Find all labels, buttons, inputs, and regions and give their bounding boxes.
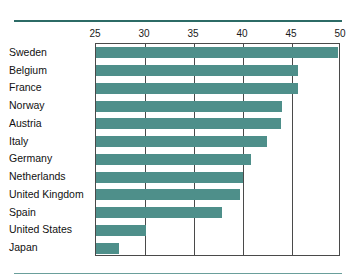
category-label: Norway [0,99,88,111]
category-label: Italy [0,135,88,147]
bar [96,172,243,183]
bar [96,189,240,200]
bar [96,243,119,254]
bar-series [96,44,339,255]
bar [96,65,298,76]
plot-area [95,43,340,256]
category-label: Austria [0,117,88,129]
x-tick-label: 50 [334,27,345,41]
bar [96,118,281,129]
bar-row [96,101,339,112]
x-tick-label: 40 [236,27,247,41]
bar-row [96,172,339,183]
category-label: Germany [0,152,88,164]
bar [96,101,282,112]
bar-row [96,47,339,58]
bar-row [96,225,339,236]
bar [96,207,222,218]
category-label: Japan [0,241,88,253]
bar-row [96,189,339,200]
category-label: Spain [0,206,88,218]
category-label: France [0,81,88,93]
bar-chart-figure: 253035404550 SwedenBelgiumFranceNorwayAu… [0,0,360,280]
bar [96,136,267,147]
category-label: United States [0,223,88,235]
bar-row [96,154,339,165]
category-label: Belgium [0,64,88,76]
bar-row [96,243,339,254]
x-axis-tick-labels: 253035404550 [0,27,360,41]
x-tick-label: 25 [89,27,100,41]
bar-row [96,118,339,129]
category-label: Netherlands [0,170,88,182]
bar-row [96,83,339,94]
top-divider-rule [14,20,342,22]
bar [96,225,146,236]
category-label: United Kingdom [0,188,88,200]
x-tick-label: 30 [138,27,149,41]
bar [96,154,251,165]
bar-row [96,65,339,76]
bar-row [96,207,339,218]
x-tick-label: 45 [285,27,296,41]
category-label: Sweden [0,46,88,58]
x-tick-label: 35 [187,27,198,41]
bottom-divider-rule [14,273,342,274]
bar [96,83,298,94]
bar-row [96,136,339,147]
category-axis-labels: SwedenBelgiumFranceNorwayAustriaItalyGer… [0,43,92,256]
bar [96,47,338,58]
